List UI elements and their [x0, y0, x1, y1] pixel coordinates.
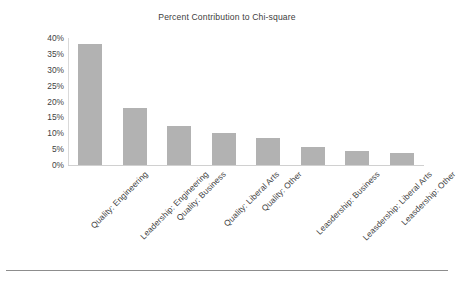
y-tick-label: 5%	[52, 144, 64, 154]
chart-title: Percent Contribution to Chi-square	[0, 12, 454, 22]
y-tick-label: 35%	[47, 49, 64, 59]
x-axis: Quality: EngineeringLeadership: Engineer…	[68, 166, 424, 266]
bar[interactable]	[345, 151, 369, 165]
y-tick-label: 40%	[47, 33, 64, 43]
y-axis: 40%35%30%25%20%15%10%5%0%	[30, 33, 64, 170]
y-tick-label: 0%	[52, 160, 64, 170]
bar[interactable]	[212, 133, 236, 165]
y-tick-label: 25%	[47, 81, 64, 91]
bar-series	[68, 38, 424, 165]
y-tick-label: 15%	[47, 112, 64, 122]
bar[interactable]	[301, 147, 325, 165]
y-tick-label: 20%	[47, 97, 64, 107]
footer-divider	[6, 270, 448, 271]
bar[interactable]	[167, 126, 191, 165]
y-tick-label: 10%	[47, 128, 64, 138]
bar[interactable]	[390, 153, 414, 165]
y-tick-label: 30%	[47, 65, 64, 75]
x-tick-label: Quality: Engineering	[89, 169, 150, 230]
x-tick-label: Leadership: Engineering	[138, 169, 210, 241]
bar[interactable]	[123, 108, 147, 165]
bar[interactable]	[256, 138, 280, 165]
bar[interactable]	[78, 44, 102, 165]
